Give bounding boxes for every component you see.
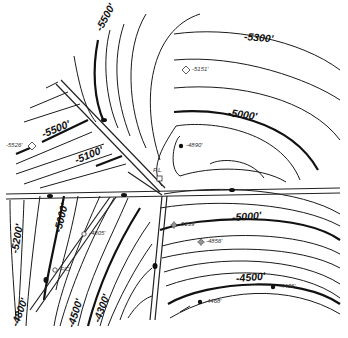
- open-circle-icon: [53, 268, 57, 272]
- well-label: -4856': [206, 238, 223, 244]
- well-label: -4406': [279, 283, 296, 289]
- well-label: F/O: [60, 266, 70, 272]
- filled-dot-icon: [271, 285, 275, 289]
- open-circle-icon: [82, 232, 86, 236]
- well-label: -5526': [6, 142, 23, 148]
- open-diamond-icon: [182, 66, 190, 74]
- dry-hole-icon: [170, 221, 178, 229]
- well-label: -4805': [89, 230, 106, 236]
- well-label: P.L.: [153, 167, 163, 173]
- open-square-icon: [157, 176, 162, 181]
- well-label: -4468': [205, 298, 222, 304]
- open-diamond-icon: [28, 142, 36, 150]
- well-label: -5151': [192, 66, 209, 72]
- dry-hole-icon: [197, 238, 205, 246]
- filled-dot-icon: [198, 300, 202, 304]
- filled-dot-icon: [179, 144, 183, 148]
- well-label: -4890': [186, 142, 203, 148]
- well-label: -5139': [179, 221, 196, 227]
- structure-contour-map: -5500' -5300' -5000' -5500' -5100' -5200…: [0, 0, 348, 338]
